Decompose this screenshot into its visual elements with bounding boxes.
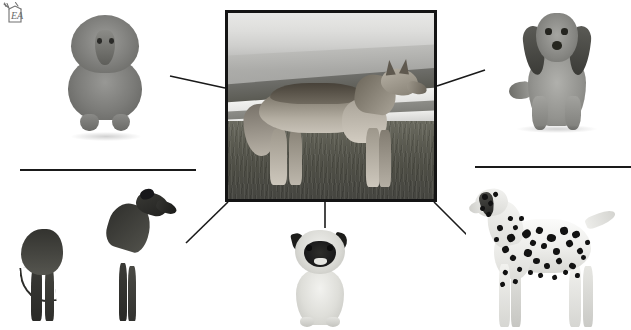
diagram-canvas: EA xyxy=(0,0,631,330)
breed-photo-greyhound xyxy=(18,188,178,324)
pug-figure xyxy=(278,228,362,328)
dalmatian-spot xyxy=(555,257,563,265)
dalmatian-spot xyxy=(535,225,544,234)
dalmatian-spot xyxy=(541,243,548,250)
poodle-ground-shadow xyxy=(71,132,141,141)
dalmatian-spot xyxy=(481,193,488,200)
dalmatian-spot xyxy=(523,248,532,257)
poodle-eye-left xyxy=(97,38,103,43)
center-wolf-photo-frame xyxy=(225,10,437,202)
pug-tongue xyxy=(314,258,327,265)
poodle-paw-right xyxy=(112,114,130,131)
wolf-hind-leg-right xyxy=(289,130,302,185)
wolf-figure xyxy=(240,65,425,195)
wolf-back-saddle xyxy=(270,83,363,104)
dalmatian-spot xyxy=(501,245,510,254)
pug-paw-right xyxy=(326,317,340,327)
dalmatian-spot xyxy=(584,240,590,245)
wolf-front-leg-right xyxy=(379,130,391,187)
dalmatian-spot xyxy=(500,281,506,287)
breed-photo-dachshund xyxy=(505,8,609,136)
dalmatian-spot xyxy=(512,224,519,230)
poodle-eye-right xyxy=(109,38,115,43)
dalmatian-spot xyxy=(503,269,509,275)
dalmatian-spot xyxy=(487,200,493,206)
dalmatian-spot xyxy=(508,215,514,221)
watermark-text: EA xyxy=(10,10,24,21)
dalmatian-spot xyxy=(575,273,580,278)
dalmatian-spot xyxy=(528,270,533,275)
dachshund-ground-shadow xyxy=(517,125,596,134)
dachshund-head xyxy=(536,13,578,62)
dalmatian-spot xyxy=(517,266,524,273)
breed-photo-dalmatian xyxy=(466,180,622,330)
dalmatian-spot xyxy=(497,224,505,231)
dalmatian-spot xyxy=(553,247,560,254)
dalmatian-spot xyxy=(529,239,537,247)
dalmatian-spot xyxy=(571,230,580,239)
greyhound-front-leg-right xyxy=(128,266,135,322)
dalmatian-spot xyxy=(565,239,574,248)
dachshund-figure xyxy=(505,8,609,136)
greyhound-figure xyxy=(18,188,178,324)
wolf-ear-left xyxy=(384,59,396,75)
dalmatian-spot xyxy=(519,216,524,221)
dalmatian-spot xyxy=(492,191,498,197)
dachshund-eye-left xyxy=(545,28,552,34)
dalmatian-spot xyxy=(568,261,577,270)
center-wolf-photo xyxy=(228,13,434,199)
connector-center-to-poodle xyxy=(170,76,225,88)
pug-paw-left xyxy=(300,317,314,327)
connector-center-to-greyhound xyxy=(186,202,228,243)
wolf-front-leg-left xyxy=(366,128,380,188)
dalmatian-spot xyxy=(480,205,486,211)
dalmatian-spot xyxy=(551,274,557,280)
dalmatian-spot xyxy=(562,269,569,276)
wolf-ear-right xyxy=(399,58,411,74)
dalmatian-spot xyxy=(512,278,518,284)
greyhound-front-leg-left xyxy=(119,263,127,321)
dalmatian-spot xyxy=(559,226,568,235)
wolf-hind-leg-left xyxy=(270,128,287,185)
dalmatian-spot xyxy=(486,211,492,217)
connector-center-to-dachshund xyxy=(437,70,485,86)
poodle-paw-left xyxy=(80,114,98,131)
poodle-figure xyxy=(60,12,152,144)
dalmatian-spot xyxy=(505,233,515,243)
breed-photo-poodle xyxy=(60,12,152,144)
dalmatian-spot xyxy=(494,237,499,242)
dalmatian-spot xyxy=(509,254,517,262)
dalmatian-figure xyxy=(466,180,622,330)
dalmatian-spot xyxy=(537,272,543,278)
dalmatian-spot xyxy=(581,255,587,261)
dalmatian-spot xyxy=(546,233,557,243)
dalmatian-spot xyxy=(544,262,551,269)
dalmatian-spot xyxy=(521,228,532,239)
breed-photo-pug xyxy=(278,228,362,328)
dalmatian-spot xyxy=(576,246,584,254)
dalmatian-spots xyxy=(466,180,622,330)
watermark-logo-icon: EA xyxy=(2,1,30,27)
dalmatian-spot xyxy=(533,258,540,264)
